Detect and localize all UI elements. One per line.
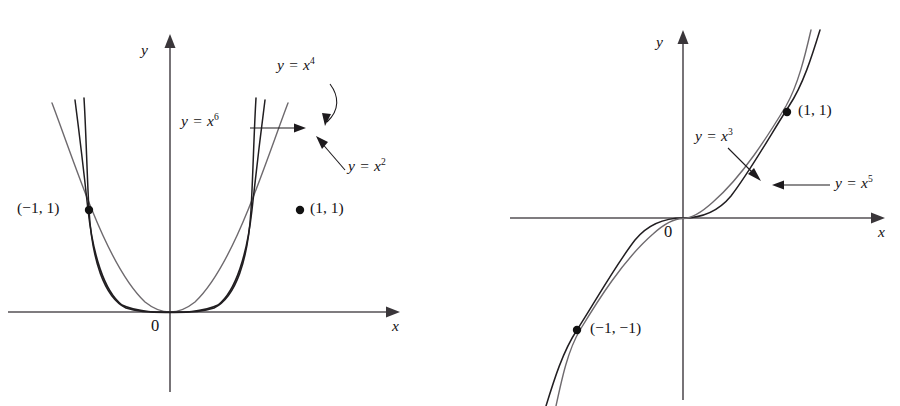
curve-label-x2: y = x2 xyxy=(348,158,386,174)
x-axis xyxy=(8,307,400,318)
curve-label-x3-text: y = x xyxy=(695,127,728,144)
x-axis-label: x xyxy=(392,318,399,334)
odd-powers-plot xyxy=(450,0,900,406)
curve-label-x6-exponent: 6 xyxy=(214,111,219,122)
curve-label-x6-text: y = x xyxy=(181,112,214,129)
point-1-1-dot xyxy=(296,206,304,214)
y-axis xyxy=(165,34,176,392)
panel-even-powers: y x 0 (−1, 1) (1, 1) y = x4 y = x6 y = x… xyxy=(0,0,450,406)
origin-label: 0 xyxy=(664,224,672,241)
curve-label-x4-exponent: 4 xyxy=(310,55,315,66)
even-powers-plot xyxy=(0,0,450,406)
curve-label-x5-text: y = x xyxy=(835,174,868,191)
point-1-1-label: (1, 1) xyxy=(798,102,832,118)
point-1-1-label: (1, 1) xyxy=(310,200,344,216)
point-neg1-1-dot xyxy=(85,206,93,214)
y-axis-label: y xyxy=(141,42,148,58)
curve-label-x3-exponent: 3 xyxy=(728,126,733,137)
curve-label-x3: y = x3 xyxy=(695,128,733,144)
point-1-1-dot xyxy=(783,108,791,116)
curve-label-x5-exponent: 5 xyxy=(868,173,873,184)
curve-label-x4: y = x4 xyxy=(277,57,315,73)
curve-label-x2-text: y = x xyxy=(348,157,381,174)
curve-label-x2-exponent: 2 xyxy=(381,156,386,167)
curve-label-x6: y = x6 xyxy=(181,113,219,129)
y-axis-label: y xyxy=(656,34,663,50)
point-neg1-neg1-label: (−1, −1) xyxy=(590,320,641,336)
origin-label: 0 xyxy=(151,318,159,335)
curve-label-x4-text: y = x xyxy=(277,56,310,73)
y-axis xyxy=(678,30,689,400)
panel-odd-powers: y x 0 (1, 1) (−1, −1) y = x3 y = x5 xyxy=(450,0,900,406)
power-functions-figure: y x 0 (−1, 1) (1, 1) y = x4 y = x6 y = x… xyxy=(0,0,900,406)
x-axis-label: x xyxy=(878,224,885,240)
curve-label-x5: y = x5 xyxy=(835,175,873,191)
leader-x5 xyxy=(772,181,830,190)
point-neg1-1-label: (−1, 1) xyxy=(17,200,59,216)
leader-x4 xyxy=(322,84,337,126)
point-neg1-neg1-dot xyxy=(573,326,581,334)
leader-x2 xyxy=(316,136,345,170)
